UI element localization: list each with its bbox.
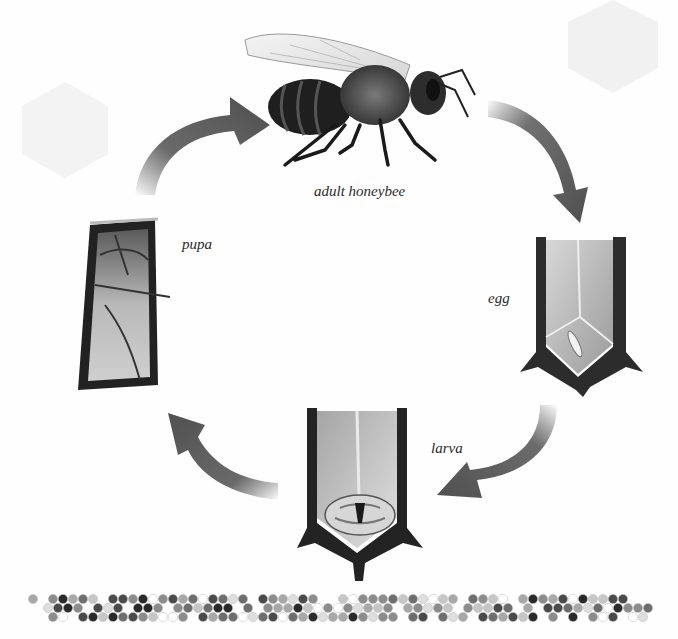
larva-label: larva (431, 440, 463, 457)
egg-label: egg (488, 290, 510, 307)
arrow-larva-to-pupa (160, 395, 280, 505)
faint-hexagon-left (20, 80, 110, 180)
adult-honeybee-illustration (240, 25, 490, 175)
larva-cell-illustration (295, 403, 425, 583)
egg-cell-illustration (518, 232, 648, 397)
faint-hexagon-right (563, 0, 663, 95)
honeycomb-border-strip (28, 594, 668, 628)
pupa-label: pupa (182, 236, 212, 253)
lifecycle-diagram: adult honeybee (0, 0, 678, 639)
arrow-pupa-to-adult (130, 95, 270, 205)
adult-honeybee-label: adult honeybee (314, 183, 405, 200)
arrow-adult-to-egg (488, 95, 588, 225)
pupa-illustration (70, 215, 180, 395)
